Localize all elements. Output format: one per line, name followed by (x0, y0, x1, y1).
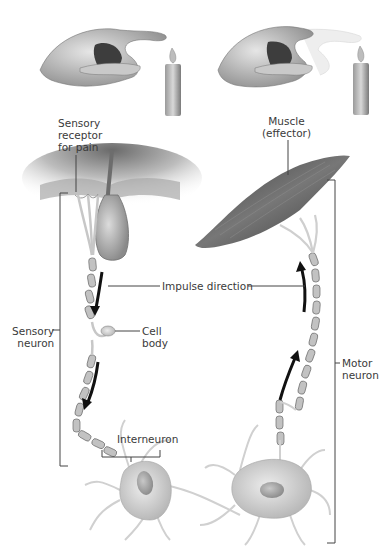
label-line: receptor (58, 129, 102, 141)
label-sensory-receptor: Sensory receptor for pain (58, 117, 102, 153)
motor-neuron-bracket (327, 180, 335, 543)
motor-axon (276, 252, 321, 445)
label-impulse-direction: Impulse direction (162, 280, 253, 292)
sensory-axon (73, 258, 118, 458)
label-line: for pain (58, 141, 102, 153)
arrow-motor-up-1 (302, 270, 305, 312)
muscle-illustration (195, 155, 350, 248)
label-muscle-effector: Muscle (effector) (262, 115, 311, 139)
right-candle (353, 46, 369, 115)
label-line: neuron (342, 369, 379, 381)
sensory-neuron-bracket (60, 193, 68, 466)
skin-hair-follicle (22, 143, 202, 260)
left-candle (165, 48, 181, 116)
label-sensory-neuron: Sensory neuron (12, 325, 54, 349)
label-line: (effector) (262, 127, 311, 139)
label-line: Muscle (262, 115, 311, 127)
label-line: Cell (142, 325, 168, 337)
reflex-arc-diagram: Sensory receptor for pain Muscle (effect… (0, 0, 385, 550)
label-line: Motor (342, 357, 379, 369)
label-line: body (142, 337, 168, 349)
label-interneuron: Interneuron (117, 433, 178, 445)
sensory-cell-body (92, 322, 115, 355)
label-line: Sensory (58, 117, 102, 129)
label-cell-body: Cell body (142, 325, 168, 349)
motor-neuron-cell (200, 425, 330, 545)
label-line: Sensory (12, 325, 54, 337)
arrow-motor-up-2 (280, 358, 295, 400)
diagram-artwork (0, 0, 385, 550)
arrow-sensory-down-1 (96, 272, 102, 308)
label-motor-neuron: Motor neuron (342, 357, 379, 381)
hand-near-flame-illustration (40, 29, 166, 86)
hand-withdrawn-illustration (218, 27, 361, 87)
label-line: neuron (12, 337, 54, 349)
